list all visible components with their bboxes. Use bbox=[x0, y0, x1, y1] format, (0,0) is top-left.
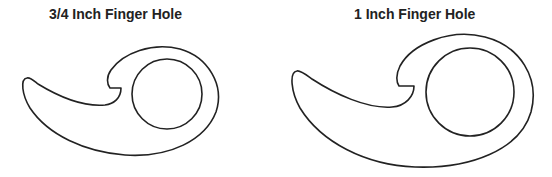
one-inch-outline bbox=[292, 34, 533, 167]
three-quarter-inch-hole bbox=[132, 59, 202, 129]
three-quarter-inch-outline bbox=[23, 47, 219, 155]
finger-hole-templates bbox=[0, 0, 552, 177]
one-inch-hole bbox=[426, 48, 514, 136]
